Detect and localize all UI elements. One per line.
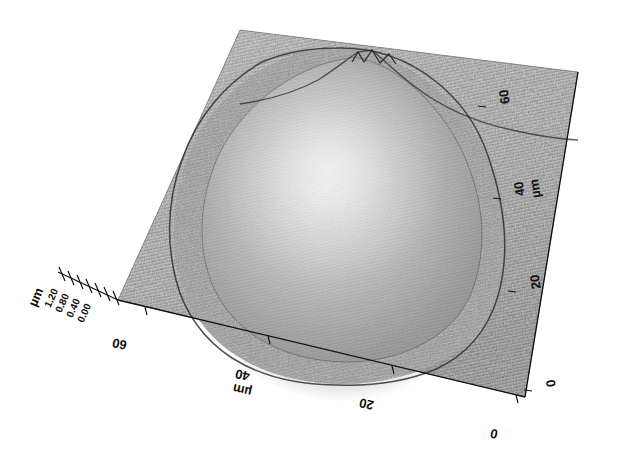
surface-plot-canvas xyxy=(0,0,620,470)
x-tick-label-20: 20 xyxy=(358,396,375,412)
y-axis-unit-label: µm xyxy=(527,178,543,199)
surface-plot-figure: 60 40 µm 20 0 0 20 40 µm 60 0.00 0.40 0.… xyxy=(0,0,620,470)
y-tick-label-20: 20 xyxy=(528,274,543,290)
y-tick-label-40: 40 xyxy=(512,181,527,197)
y-tick-label-60: 60 xyxy=(497,89,512,105)
x-axis-unit-label: µm xyxy=(231,382,252,399)
x-tick-label-60: 60 xyxy=(111,336,128,352)
